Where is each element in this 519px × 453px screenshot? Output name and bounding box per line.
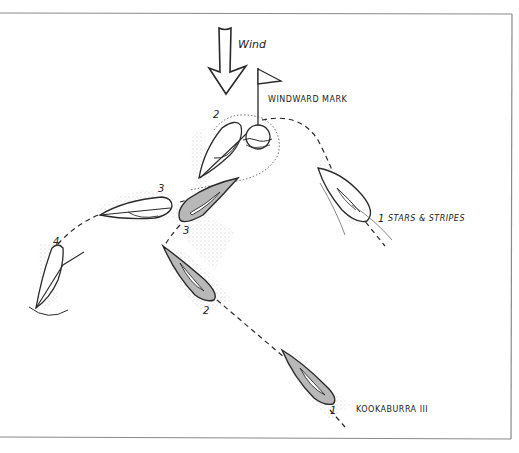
windward-mark-label: WINDWARD MARK [268, 95, 348, 104]
kk-pos3-number: 3 [183, 225, 189, 236]
stars-and-stripes-label: STARS & STRIPES [388, 214, 465, 223]
kk-pos2-number: 2 [203, 305, 209, 316]
wind-label: Wind [238, 38, 267, 51]
kk-pos1-number: 1 [330, 405, 336, 416]
boat-stars-and-stripes-pos1 [318, 168, 392, 240]
yacht-race-diagram: Wind WINDWARD MARK 1 [0, 0, 519, 453]
ss-pos4-number: 4 [53, 236, 59, 247]
kookaburra-label: KOOKABURRA III [356, 405, 428, 414]
frame [0, 13, 512, 439]
windward-mark-icon [243, 68, 281, 149]
boat-kookaburra-pos3 [179, 178, 238, 222]
boat-stars-and-stripes-pos2 [199, 122, 246, 178]
ss-pos2-number: 2 [213, 109, 219, 120]
ss-pos3-number: 3 [158, 183, 164, 194]
ss-pos1-number: 1 [378, 213, 384, 224]
boat-stars-and-stripes-pos4 [29, 245, 84, 315]
